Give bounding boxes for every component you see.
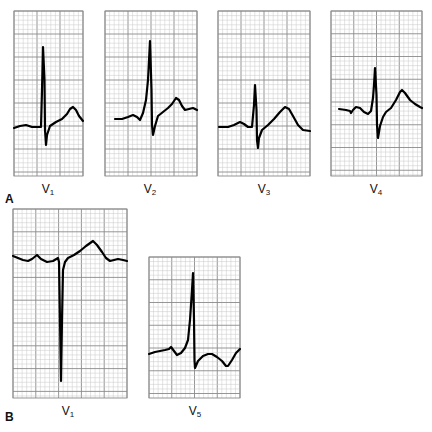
lead-number: 5 <box>197 410 201 419</box>
ecg-trace <box>339 68 422 138</box>
lead-name: V <box>144 182 152 196</box>
lead-label-a-v4: V4 <box>356 182 396 200</box>
ecg-strip-b-v1 <box>13 209 127 398</box>
ecg-tracings-canvas <box>0 0 432 432</box>
lead-number: 2 <box>152 188 156 197</box>
ecg-strip-b-v5 <box>149 257 240 398</box>
lead-name: V <box>189 404 197 418</box>
ecg-strip-a-v2 <box>105 11 197 176</box>
ecg-figure: V1V2V3V4V1V5 A B <box>0 0 432 432</box>
ecg-strip-a-v1 <box>14 11 83 176</box>
lead-number: 1 <box>70 410 74 419</box>
lead-name: V <box>62 404 70 418</box>
ecg-trace <box>115 41 197 135</box>
lead-label-a-v2: V2 <box>130 182 170 200</box>
panel-letter-b: B <box>5 410 14 424</box>
ecg-strip-a-v4 <box>331 11 422 176</box>
lead-label-a-v1: V1 <box>28 182 68 200</box>
lead-name: V <box>370 182 378 196</box>
lead-label-b-v1: V1 <box>48 404 88 422</box>
lead-number: 1 <box>50 188 54 197</box>
lead-name: V <box>258 182 266 196</box>
lead-label-b-v5: V5 <box>175 404 215 422</box>
lead-label-a-v3: V3 <box>244 182 284 200</box>
ecg-trace <box>13 241 127 381</box>
ecg-strip-a-v3 <box>218 11 310 176</box>
panel-letter-a: A <box>5 192 14 206</box>
lead-number: 3 <box>266 188 270 197</box>
lead-name: V <box>42 182 50 196</box>
lead-number: 4 <box>378 188 382 197</box>
